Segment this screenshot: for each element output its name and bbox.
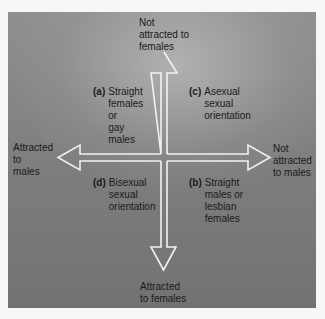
quadrant-a-letter: (a) xyxy=(93,86,105,146)
quadrant-a-label: (a) Straight females or gay males xyxy=(93,86,143,146)
axis-label-right: Not attracted to males xyxy=(273,143,312,179)
horizontal-axis-arrow xyxy=(58,145,270,170)
quadrant-a-text: Straight females or gay males xyxy=(108,86,143,146)
quadrant-b-label: (b) Straight males or lesbian females xyxy=(189,177,243,225)
quadrant-d-letter: (d) xyxy=(93,177,106,213)
quadrant-b-text: Straight males or lesbian females xyxy=(205,177,243,225)
quadrant-c-label: (c) Asexual sexual orientation xyxy=(189,86,251,122)
quadrant-c-text: Asexual sexual orientation xyxy=(204,86,251,122)
axis-label-top: Not attracted to females xyxy=(139,17,189,53)
axis-label-bottom: Attracted to females xyxy=(140,281,186,305)
axis-label-left: Attracted to males xyxy=(13,142,53,178)
quadrant-d-text: Bisexual sexual orientation xyxy=(109,177,156,213)
quadrant-c-letter: (c) xyxy=(189,86,201,122)
quadrant-b-letter: (b) xyxy=(189,177,202,225)
quadrant-d-label: (d) Bisexual sexual orientation xyxy=(93,177,155,213)
